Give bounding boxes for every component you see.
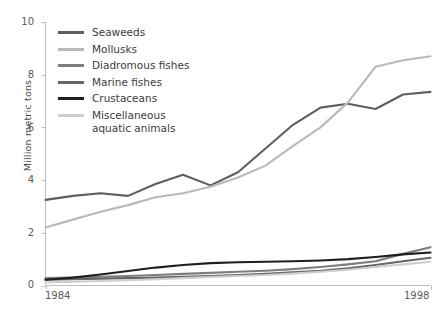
y-tick-label-8: 8	[8, 69, 34, 80]
legend-item-label: Crustaceans	[92, 92, 157, 105]
legend-item-crustaceans[interactable]: Crustaceans	[58, 92, 189, 105]
x-axis-ticks	[47, 286, 432, 290]
legend-item-label: Diadromous fishes	[92, 59, 189, 72]
legend-swatch-icon	[58, 81, 84, 84]
legend-item-mollusks[interactable]: Mollusks	[58, 43, 189, 56]
legend-item-label: Miscellaneous aquatic animals	[92, 109, 175, 135]
line-chart: Million metric tons 10 8 6 4 2 0 1984 19…	[0, 0, 446, 310]
legend-swatch-icon	[58, 114, 84, 117]
legend-item-diadromous-fishes[interactable]: Diadromous fishes	[58, 59, 189, 72]
legend-swatch-icon	[58, 97, 84, 100]
legend-item-marine-fishes[interactable]: Marine fishes	[58, 76, 189, 89]
y-tick-label-10: 10	[8, 16, 34, 27]
legend-swatch-icon	[58, 48, 84, 51]
y-tick-label-0: 0	[8, 279, 34, 290]
x-tick-label-end: 1998	[404, 290, 429, 301]
legend-swatch-icon	[58, 31, 84, 34]
y-axis-ticks	[42, 23, 46, 287]
legend-item-label: Marine fishes	[92, 76, 162, 89]
chart-legend: SeaweedsMollusksDiadromous fishesMarine …	[58, 26, 189, 138]
legend-swatch-icon	[58, 64, 84, 67]
legend-item-label: Seaweeds	[92, 26, 145, 39]
legend-item-label: Mollusks	[92, 43, 137, 56]
legend-item-miscellaneous-aquatic-animals[interactable]: Miscellaneous aquatic animals	[58, 109, 189, 135]
x-tick-label-start: 1984	[45, 290, 70, 301]
y-tick-label-6: 6	[8, 122, 34, 133]
y-tick-label-4: 4	[8, 174, 34, 185]
y-tick-label-2: 2	[8, 227, 34, 238]
legend-item-seaweeds[interactable]: Seaweeds	[58, 26, 189, 39]
